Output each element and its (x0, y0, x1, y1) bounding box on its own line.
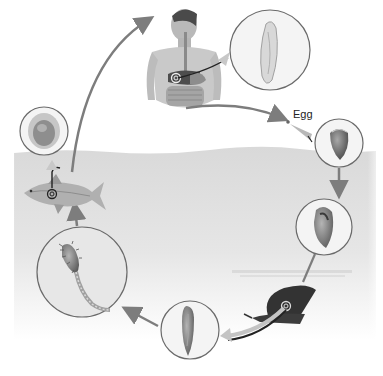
arrow-human-to-egg (186, 106, 282, 118)
sporocyst-circle (296, 199, 352, 255)
metacercaria-circle (20, 107, 68, 155)
miracidium-egg-circle (315, 119, 363, 167)
life-cycle-diagram: Egg (0, 0, 383, 376)
egg-dot (286, 120, 290, 124)
egg-label: Egg (293, 108, 313, 120)
cercaria-circle (37, 227, 127, 317)
redia-circle (161, 301, 219, 359)
human-host-figure (147, 9, 222, 108)
adult-fluke-circle (230, 10, 310, 90)
